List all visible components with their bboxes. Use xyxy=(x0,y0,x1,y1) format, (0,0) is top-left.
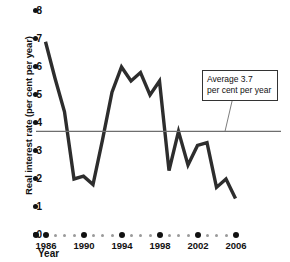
annotation-leader-line xyxy=(225,97,233,131)
data-series-line xyxy=(46,42,236,199)
average-annotation-line-1: Average 3.7 xyxy=(207,74,273,85)
average-annotation-box: Average 3.7 per cent per year xyxy=(202,70,278,101)
plot-area xyxy=(0,0,290,262)
chart-figure: Real interest rate (per cent per year) 8… xyxy=(0,0,290,262)
average-annotation-line-2: per cent per year xyxy=(207,85,273,96)
